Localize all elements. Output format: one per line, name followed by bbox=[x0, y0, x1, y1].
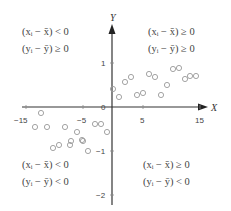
quadrant-ul-line2: (yᵢ − ȳ) ≥ 0 bbox=[22, 43, 69, 55]
y-tick-label: −1 bbox=[96, 147, 106, 156]
data-point bbox=[56, 142, 61, 147]
data-point bbox=[193, 73, 198, 78]
data-point bbox=[44, 124, 49, 129]
data-point bbox=[140, 90, 145, 95]
data-point bbox=[50, 145, 55, 150]
data-point bbox=[32, 124, 37, 129]
quadrant-ur-line2: (yᵢ − ȳ) ≥ 0 bbox=[148, 43, 195, 55]
quadrant-ur-line1: (xᵢ − x̄) ≥ 0 bbox=[148, 26, 195, 38]
y-tick-label: 1 bbox=[101, 59, 106, 68]
data-point bbox=[182, 76, 187, 81]
data-point bbox=[164, 82, 169, 87]
data-point bbox=[152, 74, 157, 79]
data-point bbox=[92, 121, 97, 126]
data-point bbox=[158, 92, 163, 97]
data-point bbox=[134, 92, 139, 97]
y-axis-arrow-icon bbox=[109, 24, 116, 34]
x-axis-label: X bbox=[210, 102, 218, 113]
y-tick-label: −2 bbox=[96, 191, 106, 200]
origin-label: 0 bbox=[101, 103, 106, 112]
scatter-chart: −15 −5 5 15 1 0 −1 −2 Y X (xᵢ − x̄) < 0 … bbox=[0, 0, 231, 211]
quadrant-lr-line1: (xᵢ − x̄) ≥ 0 bbox=[143, 159, 190, 171]
quadrant-lr-line2: (yᵢ − ȳ) < 0 bbox=[143, 176, 190, 188]
x-tick-label: −5 bbox=[77, 116, 87, 125]
data-point bbox=[38, 110, 43, 115]
x-tick-label: 15 bbox=[195, 116, 204, 125]
data-point bbox=[62, 124, 67, 129]
data-point bbox=[176, 65, 181, 70]
data-point bbox=[110, 86, 115, 91]
data-point bbox=[128, 74, 133, 79]
quadrant-ul-line1: (xᵢ − x̄) < 0 bbox=[22, 26, 69, 38]
data-point bbox=[170, 66, 175, 71]
data-point bbox=[98, 121, 103, 126]
x-tick-label: 5 bbox=[140, 116, 145, 125]
quadrant-ll-line2: (yᵢ − ȳ) < 0 bbox=[22, 176, 69, 188]
data-point bbox=[74, 129, 79, 134]
data-point bbox=[187, 73, 192, 78]
data-point bbox=[146, 71, 151, 76]
data-point bbox=[104, 129, 109, 134]
x-tick-label: −15 bbox=[14, 116, 28, 125]
scatter-points bbox=[32, 65, 198, 153]
quadrant-ll-line1: (xᵢ − x̄) < 0 bbox=[22, 159, 69, 171]
y-axis-label: Y bbox=[110, 12, 117, 23]
data-point bbox=[85, 148, 90, 153]
data-point bbox=[116, 94, 121, 99]
data-point bbox=[122, 79, 127, 84]
x-axis-arrow-icon bbox=[198, 104, 208, 111]
